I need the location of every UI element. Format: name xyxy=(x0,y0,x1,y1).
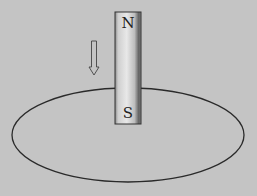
north-pole-label: N xyxy=(121,14,134,32)
bar-magnet: N S xyxy=(115,12,141,124)
down-arrow-icon xyxy=(89,41,99,75)
induction-diagram: N S xyxy=(0,0,257,196)
south-pole-label: S xyxy=(123,104,133,122)
wire-loop-front xyxy=(12,135,244,182)
diagram-canvas: N S xyxy=(0,0,257,196)
